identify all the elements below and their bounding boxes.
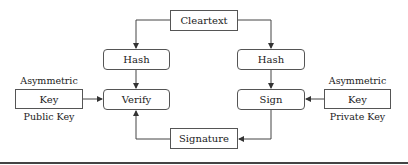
signature-label: Signature [179, 133, 229, 144]
verify-label: Verify [122, 94, 152, 105]
public-key-node: Key [15, 89, 83, 109]
hash-left-label: Hash [123, 54, 149, 65]
public-key-label: Key [40, 94, 59, 105]
hash-right-label: Hash [258, 54, 284, 65]
private-key-label: Key [348, 94, 367, 105]
private-key-node: Key [324, 89, 391, 109]
verify-node: Verify [103, 89, 170, 110]
left-asymmetric-label: Asymmetric [15, 75, 83, 86]
hash-left-node: Hash [103, 49, 170, 70]
hash-right-node: Hash [237, 49, 305, 70]
public-key-caption: Public Key [15, 111, 83, 122]
sign-node: Sign [237, 89, 305, 110]
bottom-rule [0, 162, 408, 164]
cleartext-node: Cleartext [170, 10, 238, 31]
right-asymmetric-label: Asymmetric [324, 75, 391, 86]
private-key-caption: Private Key [324, 111, 391, 122]
signature-node: Signature [170, 128, 238, 149]
cleartext-label: Cleartext [180, 15, 227, 26]
sign-label: Sign [260, 94, 283, 105]
